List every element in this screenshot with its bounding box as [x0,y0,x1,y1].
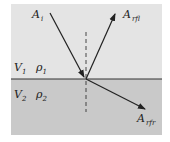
lower-medium [11,79,162,135]
reflection-refraction-diagram: Ai Arfl Arfr V1 ρ1 V2 ρ2 [0,0,170,142]
